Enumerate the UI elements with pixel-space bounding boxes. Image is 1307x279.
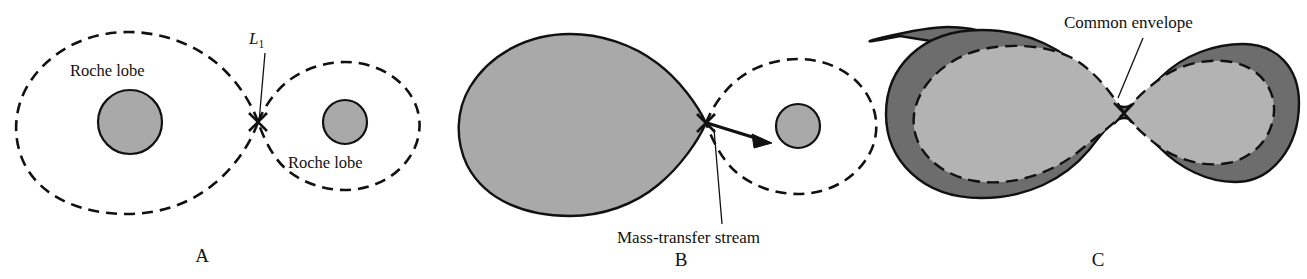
- panel-c-letter: C: [1092, 249, 1105, 270]
- star-primary-a: [98, 90, 162, 154]
- star-companion-b: [776, 104, 820, 148]
- roche-lobe-left-label: Roche lobe: [70, 61, 145, 80]
- panel-a-letter: A: [195, 245, 209, 266]
- lagrange-point-letter: L: [248, 29, 258, 48]
- mass-transfer-stream-label: Mass-transfer stream: [617, 228, 760, 247]
- lagrange-point-subscript: 1: [258, 38, 264, 50]
- roche-lobe-right-label: Roche lobe: [288, 153, 363, 172]
- panel-b-letter: B: [675, 249, 688, 270]
- common-envelope-label: Common envelope: [1064, 13, 1193, 32]
- star-secondary-a: [323, 100, 367, 144]
- roche-lobe-figure: Roche lobe Roche lobe L1 A Mass-transfer…: [0, 0, 1307, 279]
